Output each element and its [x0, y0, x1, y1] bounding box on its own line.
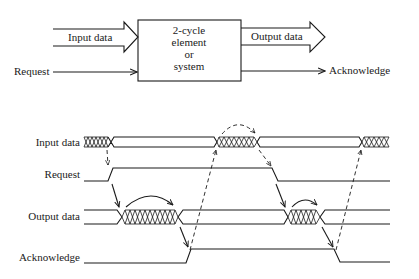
- output-data-hatch-1: [122, 210, 178, 224]
- box-label-line-4: system: [174, 60, 205, 72]
- arrow-request-to-output-1: [112, 184, 119, 207]
- timing-diagram: Input data Request Output data Acknowled…: [19, 125, 390, 263]
- request-waveform: [84, 168, 390, 181]
- box-label-line-3: or: [184, 48, 194, 60]
- block-input-data-label: Input data: [68, 31, 112, 43]
- timing-label-request: Request: [45, 168, 80, 180]
- input-data-hatch-3: [362, 137, 389, 147]
- arrow-input-hatch-2-span: [222, 125, 255, 134]
- input-data-hatch-2: [217, 137, 257, 147]
- output-data-hatch-2: [288, 210, 320, 224]
- block-output-data-label: Output data: [251, 30, 303, 42]
- arrow-output-hatch-2-span: [292, 200, 317, 207]
- block-acknowledge-label: Acknowledge: [329, 64, 390, 76]
- block-diagram: Input data Request 2-cycle element or sy…: [14, 20, 390, 81]
- arrow-output-to-ack-fall: [322, 227, 333, 247]
- output-data-waveform: [84, 210, 390, 224]
- arrow-output-to-ack-rise: [180, 227, 188, 247]
- causality-arrows: [107, 125, 361, 250]
- acknowledge-waveform: [84, 249, 390, 263]
- timing-label-input-data: Input data: [36, 136, 80, 148]
- input-data-hatch-1: [84, 137, 108, 147]
- block-request-label: Request: [14, 65, 49, 77]
- timing-label-output-data: Output data: [28, 210, 80, 222]
- arrow-output-hatch-1-span: [126, 196, 173, 207]
- arrow-input-valid-to-request: [107, 150, 108, 165]
- input-data-waveform: [84, 137, 389, 147]
- arrow-input-valid-to-request-fall: [259, 150, 271, 166]
- timing-label-acknowledge: Acknowledge: [19, 251, 80, 263]
- box-label-line-1: 2-cycle: [173, 24, 205, 36]
- arrow-request-to-output-2: [276, 184, 285, 207]
- box-label-line-2: element: [172, 36, 207, 48]
- two-cycle-handshake-diagram: Input data Request 2-cycle element or sy…: [0, 0, 419, 279]
- arrow-ack-fall-to-input: [336, 150, 361, 250]
- arrow-ack-rise-to-input: [190, 150, 216, 250]
